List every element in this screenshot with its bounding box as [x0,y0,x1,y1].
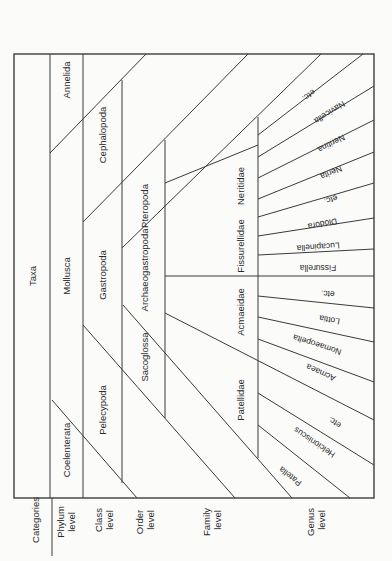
genus-diodora: Diodora [307,216,338,232]
genus-etc-3: etc. [321,289,335,300]
genus-etc-1: etc. [300,87,317,103]
genus-etc-4: etc. [326,415,343,431]
family-neritidae: Neritidae [235,167,246,205]
genus-helcioniscus: Helcioniscus [292,425,337,460]
order-archaeogastropoda: Archaeogastropoda [139,228,150,312]
svg-text:level: level [66,512,77,532]
taxonomy-diagram: Taxa Annelida Mollusca Coelenterata Ceph… [0,0,392,561]
phylum-annelida: Annelida [61,61,72,99]
svg-text:level: level [145,510,156,530]
genus-divider [258,120,374,178]
level-family: Family level [201,508,223,536]
level-class: Class level [93,508,115,532]
genus-acmaea: Acmaea [304,362,337,384]
order-sacoglossa: Sacoglossa [139,332,150,382]
genus-fissurella: Fissurella [300,263,337,273]
level-phylum: Phylum level [55,506,77,538]
genus-divider [258,393,374,465]
class-cephalopoda: Cephalopoda [97,106,108,163]
phylum-mollusca: Mollusca [61,257,72,295]
genus-divider [258,296,374,308]
categories-header: Categories [30,497,41,543]
class-gastropoda: Gastropoda [97,249,108,299]
genus-navicella: Navicella [312,99,347,126]
family-fissurellidae: Fissurellidae [235,219,246,272]
genus-lottia: Lottia [318,313,340,327]
svg-text:level: level [316,510,327,530]
svg-text:Class: Class [93,508,104,532]
svg-text:Phylum: Phylum [55,506,66,538]
svg-text:level: level [212,510,223,530]
genus-divider [258,183,374,217]
level-order: Order level [134,510,156,534]
svg-text:Family: Family [201,508,212,536]
taxa-header: Taxa [27,265,38,286]
genus-neritina: Neritina [316,133,347,155]
svg-text:Genus: Genus [305,508,316,536]
genus-divider [258,317,374,342]
genus-etc-2: etc. [323,193,339,207]
genus-lucapinella: Lucapinella [296,241,340,254]
genus-divider [258,152,374,199]
svg-text:level: level [104,510,115,530]
order-pteropoda: Pteropoda [139,183,150,228]
family-acmaeidae: Acmaeidae [235,288,246,336]
level-genus: Genus level [305,508,327,536]
svg-text:Order: Order [134,510,145,534]
phylum-coelenterata: Coelenterata [61,422,72,477]
acmaeidae-patellidae-boundary [165,313,374,420]
genus-nomaeopelta: Nomaeopelta [291,332,342,357]
genus-nerita: Nerita [319,164,344,182]
pteropoda-archaeogastropoda-boundary [122,54,321,248]
class-pelecypoda: Pelecypoda [97,384,108,434]
family-patellidae: Patellidae [235,379,246,421]
